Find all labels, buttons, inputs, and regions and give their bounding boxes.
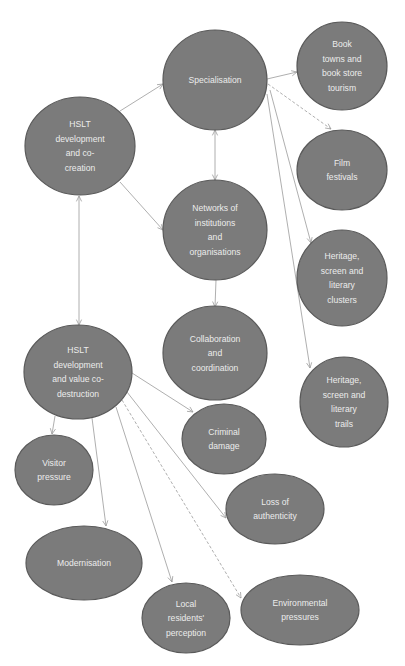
edge-networks-to-collaboration [213,280,218,307]
node-label-line: pressure [37,472,71,482]
concept-diagram: SpecialisationBooktowns andbook storetou… [0,0,405,666]
node-hslt-co-creation: HSLTdevelopmentand co-creation [25,97,135,195]
edge-specialisation-to-heritage-trails [267,94,312,368]
node-label-line: festivals [326,172,357,182]
node-label-line: literary [329,280,355,290]
connector-line [120,84,163,111]
node-label-line: HSLT [69,119,91,129]
arrowhead-icon [157,84,163,89]
node-hslt-co-destruction: HSLTdevelopmentand value co-destruction [24,325,132,419]
arrowhead-icon [187,407,193,412]
node-label-line: damage [208,441,239,451]
node-ellipse [300,357,388,447]
node-environmental-pressures: Environmentalpressures [241,575,359,645]
node-label-line: screen and [323,390,366,400]
edge-hslt-co-creation-to-specialisation [120,84,163,111]
node-label-line: Local [176,599,197,609]
node-label-line: and value co- [52,374,104,384]
node-book-towns: Booktowns andbook storetourism [297,22,387,110]
node-heritage-clusters: Heritage,screen andliteraryclusters [297,230,387,326]
node-label-line: and [208,232,223,242]
node-label-line: Film [334,158,350,168]
node-label-line: literary [331,404,357,414]
node-ellipse [182,404,266,474]
connector-line [267,94,310,368]
node-label-line: clusters [327,295,357,305]
connector-line [120,182,163,230]
node-ellipse [25,97,135,195]
arrowhead-icon [325,124,331,129]
node-label-line: perception [166,628,206,638]
node-label-line: Networks of [192,203,238,213]
node-label-line: towns and [322,54,361,64]
node-label-line: trails [335,419,353,429]
node-label-line: book store [322,68,362,78]
node-specialisation: Specialisation [163,30,267,130]
node-ellipse [297,22,387,110]
node-local-residents: Localresidents'perception [142,583,230,653]
node-label-line: Book [332,39,352,49]
nodes-layer: SpecialisationBooktowns andbook storetou… [15,22,388,653]
node-label-line: Environmental [273,598,328,608]
node-label-line: Specialisation [188,75,241,85]
node-ellipse [241,575,359,645]
node-label-line: screen and [321,266,364,276]
edge-specialisation-to-networks [212,130,217,180]
connector-line [215,280,216,307]
node-label-line: residents' [168,613,205,623]
node-ellipse [226,474,324,544]
connector-line [92,418,106,526]
edge-hslt-co-destruction-to-visitor-pressure [50,416,55,434]
node-label-line: creation [65,163,96,173]
edge-hslt-co-creation-to-networks [120,182,163,230]
node-ellipse [297,130,387,210]
node-label-line: HSLT [67,345,89,355]
node-modernisation: Modernisation [26,526,142,600]
node-ellipse [15,435,93,505]
node-ellipse [163,180,267,280]
node-ellipse [24,325,132,419]
node-criminal-damage: Criminaldamage [182,404,266,474]
node-label-line: institutions [195,218,236,228]
node-label-line: authenticity [253,511,297,521]
node-label-line: Collaboration [190,334,241,344]
node-film-festivals: Filmfestivals [297,130,387,210]
node-label-line: pressures [281,612,319,622]
node-label-line: and co- [66,148,95,158]
node-label-line: Heritage, [327,375,362,385]
node-label-line: development [53,360,103,370]
node-label-line: Modernisation [57,558,111,568]
node-visitor-pressure: Visitorpressure [15,435,93,505]
node-collaboration: Collaborationandcoordination [163,306,267,400]
node-ellipse [297,230,387,326]
node-label-line: tourism [328,83,356,93]
node-label-line: organisations [189,247,240,257]
edge-hslt-co-destruction-to-modernisation [92,418,108,526]
node-heritage-trails: Heritage,screen andliterarytrails [300,357,388,447]
node-label-line: development [55,134,105,144]
arrowhead-icon [236,592,241,598]
node-label-line: Visitor [42,458,66,468]
node-label-line: and [208,348,223,358]
node-label-line: Heritage, [325,251,360,261]
node-label-line: coordination [192,363,239,373]
node-loss-of-authenticity: Loss ofauthenticity [226,474,324,544]
node-networks: Networks ofinstitutionsandorganisations [163,180,267,280]
edge-hslt-co-creation-to-hslt-co-destruction [76,196,81,325]
node-label-line: Criminal [208,427,240,437]
node-label-line: destruction [57,389,99,399]
edge-specialisation-to-book-towns [267,71,297,79]
node-label-line: Loss of [261,497,289,507]
